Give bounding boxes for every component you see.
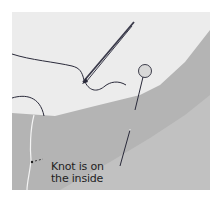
thread-top <box>12 54 84 80</box>
knot-caption: Knot is on the inside <box>51 161 104 185</box>
sewing-illustration <box>12 12 210 190</box>
illustration-frame: Knot is on the inside <box>12 12 210 190</box>
needle-icon <box>82 22 134 84</box>
knot-dot <box>31 161 33 163</box>
caption-line-2: the inside <box>51 173 104 185</box>
thread-loop-left <box>12 96 44 116</box>
thread-tail <box>85 82 126 90</box>
